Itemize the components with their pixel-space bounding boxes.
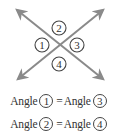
intersecting-lines-diagram: 1 2 3 4: [0, 0, 119, 86]
equation-row-2: Angle 2 = Angle 4: [0, 114, 119, 134]
equation-right-word: Angle: [64, 118, 91, 130]
svg-text:4: 4: [56, 58, 62, 70]
angle-label-1: 1: [35, 38, 49, 52]
equals-sign: =: [56, 118, 62, 130]
equation-right-word: Angle: [64, 95, 91, 107]
angle-label-2: 2: [52, 21, 66, 35]
equation-row-1: Angle 1 = Angle 3: [0, 91, 119, 111]
angle-number-badge: 3: [93, 94, 107, 108]
equation-left-word: Angle: [10, 118, 37, 130]
svg-text:1: 1: [39, 39, 45, 51]
angle-number-badge: 4: [93, 117, 107, 131]
angle-number-badge: 1: [39, 94, 53, 108]
svg-text:2: 2: [56, 22, 62, 34]
equals-sign: =: [56, 95, 62, 107]
svg-text:3: 3: [74, 39, 80, 51]
angle-label-3: 3: [70, 38, 84, 52]
angle-label-4: 4: [52, 57, 66, 71]
equation-left-word: Angle: [10, 95, 37, 107]
angle-number-badge: 2: [39, 117, 53, 131]
